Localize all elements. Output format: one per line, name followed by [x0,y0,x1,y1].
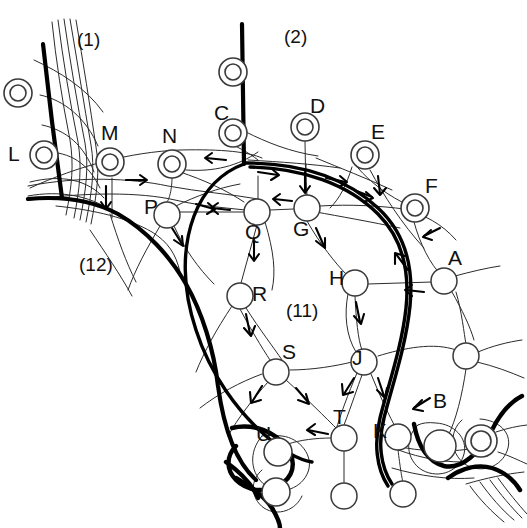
arrow-down-j-left [342,378,354,395]
arrow-down-j-right [377,378,387,398]
node-L [30,141,58,169]
boundary-zone12-arc [28,198,256,480]
node-M [96,148,124,176]
node-label-Q: Q [245,221,261,242]
node-label-D: D [310,95,325,116]
node-label-N: N [162,125,177,146]
diagram-canvas: L M N C D E F P Q G A H R S J T K U B (1… [0,0,527,528]
node-label-G: G [293,218,309,239]
heavy-boundary-curves [28,24,256,480]
arrow-down-m [101,186,111,209]
node-N [158,150,186,178]
node-label-S: S [282,341,296,362]
zone-label-1: (1) [77,30,100,49]
arrow-right-lobetop [258,169,279,180]
node-A [431,268,457,294]
arrow-down-s-left [250,386,262,403]
zone-label-12: (12) [79,255,113,274]
node-U-lower [262,478,290,506]
node-label-P: P [144,196,158,217]
node-T [331,425,357,451]
node-label-A: A [448,247,462,268]
node-unlabeled-br [465,425,497,457]
arrow-left-c [205,153,226,163]
node-label-L: L [8,143,20,164]
node-label-C: C [214,102,229,123]
arrow-left-g [273,194,292,205]
node-unlabeled-topleft [4,79,32,107]
node-D [291,113,319,141]
node-unlabeled-top2 [219,58,247,86]
node-label-R: R [252,283,267,304]
node-unlabeled-bottom1 [331,483,357,509]
node-label-M: M [101,122,119,143]
node-R [227,283,253,309]
arrow-pointer-b [413,398,430,411]
node-E [351,141,379,169]
node-label-H: H [329,267,344,288]
node-unlabeled-bottom2 [390,481,416,507]
node-label-T: T [333,406,346,427]
arrow-right-m [126,175,147,185]
zone-label-2: (2) [284,27,307,46]
arrow-left-t [307,424,328,435]
node-K [385,424,411,450]
node-label-B: B [433,390,447,411]
arrow-down-q [249,240,259,261]
node-B-inner [424,430,456,462]
node-label-J: J [352,347,363,368]
node-label-F: F [425,175,438,196]
node-unlabeled-right [453,343,479,369]
arrow-left-f [423,228,440,240]
boundary-fault-left [43,44,62,198]
node-label-U: U [256,423,271,444]
arrow-down-r [244,314,255,336]
zone-label-11: (11) [286,301,318,320]
node-F [401,194,429,222]
arrow-down-s-right [296,388,309,404]
node-label-K: K [373,420,387,441]
node-label-E: E [371,121,385,142]
arrow-down-p [172,228,183,246]
node-H [342,270,368,296]
